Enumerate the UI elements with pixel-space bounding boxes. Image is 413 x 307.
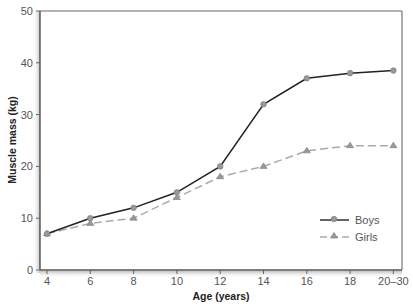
series-line-boys bbox=[47, 71, 393, 234]
girls-data-point bbox=[390, 142, 397, 148]
y-tick-label: 30 bbox=[21, 109, 33, 121]
boys-data-point bbox=[174, 190, 180, 196]
y-tick-label: 10 bbox=[21, 212, 33, 224]
legend: Boys Girls bbox=[320, 214, 380, 243]
axis-shadow-left bbox=[33, 11, 40, 273]
x-tick-label: 12 bbox=[214, 275, 226, 287]
data-series bbox=[44, 68, 397, 237]
y-axis-title: Muscle mass (kg) bbox=[6, 96, 18, 184]
legend-label-boys: Boys bbox=[355, 214, 380, 226]
x-tick-label: 18 bbox=[344, 275, 356, 287]
legend-item-boys: Boys bbox=[320, 214, 380, 226]
x-axis-title: Age (years) bbox=[192, 290, 249, 302]
line-chart: 01020304050 468101214161820–30 Age (year… bbox=[0, 0, 413, 307]
plot-frame bbox=[40, 11, 402, 270]
x-tick-label: 6 bbox=[87, 275, 93, 287]
x-tick-label: 20–30 bbox=[378, 275, 409, 287]
y-tick-label: 20 bbox=[21, 160, 33, 172]
boys-data-point bbox=[88, 215, 94, 221]
legend-item-girls: Girls bbox=[320, 231, 378, 243]
x-tick-label: 4 bbox=[44, 275, 50, 287]
boys-data-point bbox=[217, 164, 223, 170]
boys-data-point bbox=[261, 101, 267, 107]
y-tick-label: 40 bbox=[21, 57, 33, 69]
legend-label-girls: Girls bbox=[355, 231, 378, 243]
x-tick-label: 16 bbox=[301, 275, 313, 287]
y-tick-label: 0 bbox=[27, 264, 33, 276]
boys-data-point bbox=[304, 76, 310, 82]
girls-data-point bbox=[347, 142, 354, 148]
x-tick-label: 14 bbox=[257, 275, 269, 287]
boys-data-point bbox=[44, 231, 50, 237]
boys-data-point bbox=[347, 70, 353, 76]
y-tick-label: 50 bbox=[21, 5, 33, 17]
x-tick-label: 10 bbox=[171, 275, 183, 287]
boys-data-point bbox=[391, 68, 397, 74]
boys-data-point bbox=[131, 205, 137, 211]
x-tick-label: 8 bbox=[131, 275, 137, 287]
triangle-marker-icon bbox=[331, 233, 338, 239]
circle-marker-icon bbox=[331, 216, 337, 222]
